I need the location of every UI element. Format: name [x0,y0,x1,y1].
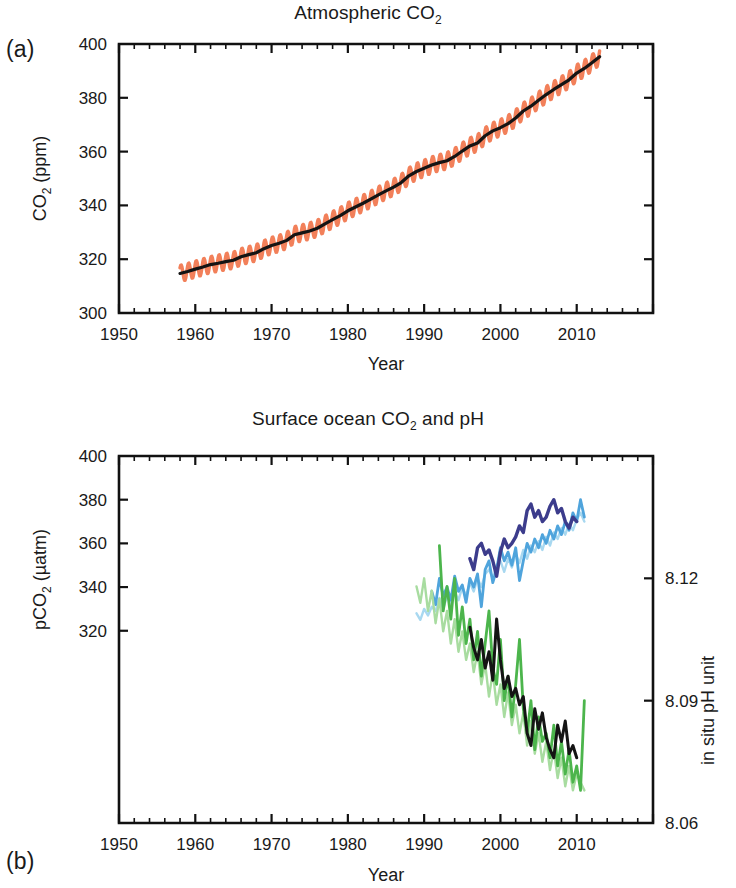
panel-a-ylabel: CO2 (ppm) [30,136,54,222]
svg-text:380: 380 [79,491,107,510]
svg-text:1980: 1980 [329,835,367,854]
svg-text:8.12: 8.12 [665,569,698,588]
panel-a-plot: 3003203403603804001950196019701980199020… [0,0,736,400]
svg-text:CO2 (ppm): CO2 (ppm) [30,136,54,222]
svg-text:in situ pH unit: in situ pH unit [698,656,718,765]
svg-text:2000: 2000 [482,835,520,854]
svg-text:400: 400 [79,35,107,54]
svg-text:2010: 2010 [558,835,596,854]
panel-b-ylabel-left: pCO2 (µatm) [30,529,54,630]
svg-text:300: 300 [79,304,107,323]
panel-b-xlabel: Year [368,865,404,885]
svg-text:360: 360 [79,534,107,553]
svg-text:8.09: 8.09 [665,692,698,711]
svg-text:1980: 1980 [329,325,367,344]
figure-root: Atmospheric CO2 (a) 30032034036038040019… [0,0,736,888]
svg-text:1970: 1970 [253,325,291,344]
svg-text:320: 320 [79,622,107,641]
svg-text:320: 320 [79,250,107,269]
svg-text:380: 380 [79,89,107,108]
panel-atmospheric-co2: Atmospheric CO2 (a) 30032034036038040019… [0,0,736,400]
svg-text:1960: 1960 [176,835,214,854]
panel-surface-ocean: Surface ocean CO2 and pH (b) 32034036038… [0,400,736,888]
svg-text:340: 340 [79,196,107,215]
svg-text:400: 400 [79,447,107,466]
svg-text:1950: 1950 [100,835,138,854]
svg-text:1990: 1990 [405,835,443,854]
svg-text:360: 360 [79,143,107,162]
svg-text:2000: 2000 [482,325,520,344]
panel-a-xlabel: Year [368,354,404,374]
svg-text:8.06: 8.06 [665,814,698,833]
svg-text:340: 340 [79,578,107,597]
ph-mid-green-series [439,546,584,791]
svg-text:1990: 1990 [405,325,443,344]
svg-text:1970: 1970 [253,835,291,854]
svg-text:1950: 1950 [100,325,138,344]
svg-text:2010: 2010 [558,325,596,344]
svg-text:1960: 1960 [176,325,214,344]
co2-seasonal-series [180,51,600,280]
panel-b-ylabel-right: in situ pH unit [698,656,718,765]
panel-b-plot: 3203403603804008.068.098.121950196019701… [0,400,736,888]
co2-smoothed-series [180,57,600,274]
svg-text:pCO2 (µatm): pCO2 (µatm) [30,529,54,630]
